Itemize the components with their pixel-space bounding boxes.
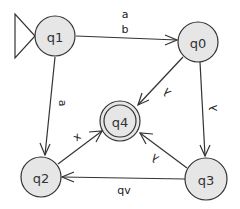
edge-label-q3-q4: λ: [148, 151, 161, 166]
state-label-q3: q3: [198, 173, 215, 188]
edge-label-q1-q0-b: b: [122, 23, 129, 36]
state-q2[interactable]: q2: [21, 157, 61, 197]
state-q0[interactable]: q0: [178, 22, 218, 62]
state-q3[interactable]: q3: [185, 158, 227, 200]
edge-label-q1-q0-a: a: [122, 8, 129, 21]
edge-q1-q0: [76, 35, 177, 45]
edge-label-q0-q4: λ: [160, 85, 174, 99]
edge-q0-q4: [138, 57, 183, 105]
state-label-q1: q1: [47, 30, 64, 45]
state-label-q4: q4: [112, 115, 129, 130]
state-label-q2: q2: [33, 171, 50, 186]
initial-state-marker-icon: [15, 14, 35, 58]
edge-label-q0-q3: λ: [207, 104, 220, 111]
edge-q3-q4: [140, 133, 187, 168]
edge-q1-q2: [40, 57, 55, 155]
automaton-diagram: a b a λ λ λ x qv q1 q0 q4: [0, 0, 240, 209]
edge-q3-q2: [62, 172, 185, 182]
edge-label-q3-q2: qv: [117, 184, 131, 197]
state-label-q0: q0: [190, 36, 207, 51]
edge-label-q2-q4: x: [70, 130, 83, 145]
edge-label-q1-q2: a: [56, 100, 69, 107]
state-q1[interactable]: q1: [35, 16, 75, 56]
state-q4-final[interactable]: q4: [100, 101, 140, 141]
